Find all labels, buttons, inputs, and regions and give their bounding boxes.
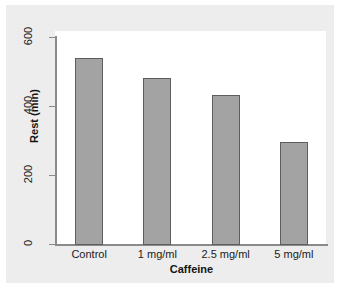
y-tick-200: [49, 175, 56, 176]
bar-5mgml: [280, 142, 308, 245]
y-tick-label-600-wrap: 600: [22, 30, 48, 44]
x-tick-label-25mgml: 2.5 mg/ml: [192, 248, 260, 260]
figure-panel: 600 400 200 0 Rest (min) Control 1 mg/ml…: [6, 5, 334, 283]
y-axis-line: [55, 36, 57, 246]
y-tick-400: [49, 106, 56, 107]
y-axis-title: Rest (min): [28, 76, 40, 156]
y-tick-0: [49, 244, 56, 245]
y-tick-600: [49, 37, 56, 38]
y-tick-label-0-wrap: 0: [22, 237, 48, 251]
x-tick-label-control: Control: [55, 248, 123, 260]
bar-control: [75, 58, 103, 245]
x-tick-label-5mgml: 5 mg/ml: [260, 248, 328, 260]
y-tick-label-200-wrap: 200: [22, 168, 48, 182]
x-axis-title: Caffeine: [55, 263, 328, 275]
y-tick-label-600: 600: [22, 16, 34, 56]
bar-1mgml: [143, 78, 171, 245]
bar-25mgml: [212, 95, 240, 245]
y-tick-label-200: 200: [22, 154, 34, 194]
y-tick-label-0: 0: [22, 223, 34, 263]
x-tick-label-1mgml: 1 mg/ml: [123, 248, 191, 260]
